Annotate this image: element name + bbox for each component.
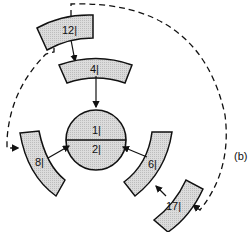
block-6-label: 6| bbox=[148, 158, 157, 170]
block-17-label: 17| bbox=[166, 200, 181, 212]
arrow-6-to-center bbox=[123, 147, 147, 157]
block-17: 17| bbox=[154, 180, 203, 232]
block-4-label: 4| bbox=[90, 63, 99, 75]
block-12: 12| bbox=[37, 15, 93, 50]
arrow-17-to-6 bbox=[156, 186, 166, 196]
center-node: 1| 2| bbox=[66, 110, 126, 170]
arrow-12-to-4 bbox=[71, 40, 75, 61]
block-6: 6| bbox=[124, 132, 172, 196]
center-top-label: 1| bbox=[92, 124, 101, 136]
diagram-canvas: 12| 4| 1| 2| 8| 6| 17| (b) bbox=[0, 0, 250, 232]
center-bottom-label: 2| bbox=[92, 143, 101, 155]
block-8-label: 8| bbox=[35, 156, 44, 168]
block-12-label: 12| bbox=[62, 24, 77, 36]
arrow-8-to-center bbox=[48, 146, 69, 158]
block-8: 8| bbox=[20, 131, 65, 196]
annotation-label: (b) bbox=[234, 150, 247, 162]
